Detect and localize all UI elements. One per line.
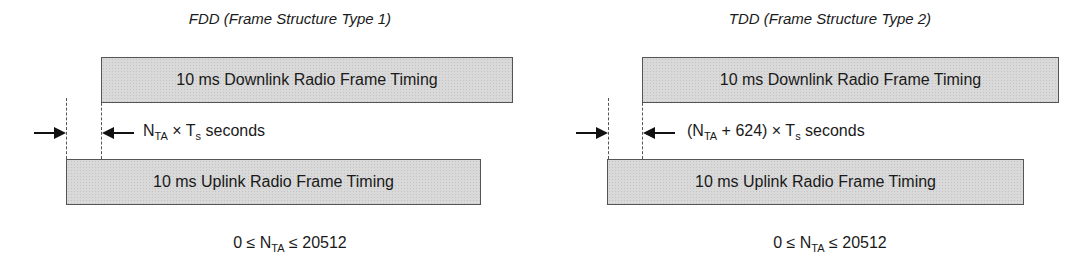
- fdd-nta-range: 0 ≤ NTA ≤ 20512: [140, 234, 440, 254]
- fdd-title: FDD (Frame Structure Type 1): [90, 10, 490, 27]
- fdd-downlink-frame: 10 ms Downlink Radio Frame Timing: [101, 57, 513, 103]
- left-arrow-icon: [643, 126, 675, 140]
- left-arrow-icon: [102, 126, 134, 140]
- fdd-uplink-frame: 10 ms Uplink Radio Frame Timing: [66, 159, 481, 205]
- tdd-nta-range: 0 ≤ NTA ≤ 20512: [680, 234, 980, 254]
- tdd-title: TDD (Frame Structure Type 2): [630, 10, 1030, 27]
- tdd-downlink-frame: 10 ms Downlink Radio Frame Timing: [642, 57, 1059, 103]
- tdd-uplink-start-marker: [608, 98, 609, 159]
- tdd-uplink-frame: 10 ms Uplink Radio Frame Timing: [607, 159, 1024, 205]
- tdd-timing-offset: (NTA + 624) × Ts seconds: [687, 122, 865, 142]
- right-arrow-icon: [34, 126, 66, 140]
- tdd-downlink-label: 10 ms Downlink Radio Frame Timing: [720, 71, 981, 89]
- fdd-timing-offset: NTA × Ts seconds: [143, 122, 265, 142]
- fdd-uplink-start-marker: [66, 98, 67, 159]
- right-arrow-icon: [576, 126, 608, 140]
- tdd-uplink-label: 10 ms Uplink Radio Frame Timing: [695, 173, 936, 191]
- fdd-downlink-label: 10 ms Downlink Radio Frame Timing: [176, 71, 437, 89]
- fdd-uplink-label: 10 ms Uplink Radio Frame Timing: [153, 173, 394, 191]
